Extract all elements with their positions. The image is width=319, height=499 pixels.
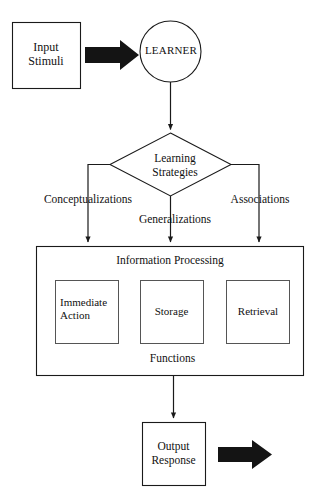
diagram-canvas bbox=[0, 0, 319, 499]
left-branch-connector bbox=[88, 165, 110, 243]
output-response-box bbox=[143, 423, 206, 486]
output-response-arrow bbox=[218, 440, 272, 469]
retrieval-box bbox=[227, 281, 290, 344]
storage-box bbox=[141, 281, 204, 344]
learner-circle bbox=[140, 21, 201, 82]
immediate-action-box bbox=[56, 281, 119, 344]
input-to-learner-arrow bbox=[85, 40, 139, 70]
learning-process-diagram: Input Stimuli LEARNER Learning Strategie… bbox=[0, 0, 319, 499]
input-stimuli-box bbox=[13, 23, 81, 89]
learning-strategies-diamond bbox=[110, 133, 231, 196]
right-branch-connector bbox=[231, 165, 259, 243]
